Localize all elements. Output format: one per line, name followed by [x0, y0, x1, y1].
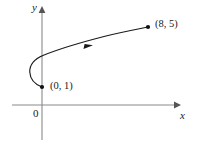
x-axis-arrowhead-icon	[174, 102, 181, 109]
start-point-label: (0, 1)	[50, 81, 73, 92]
y-axis-arrowhead-icon	[39, 6, 46, 13]
end-point-label: (8, 5)	[155, 19, 178, 30]
start-point-marker	[40, 85, 44, 89]
parametric-curve-figure: y x 0 (0, 1) (8, 5)	[0, 0, 199, 146]
origin-label: 0	[33, 108, 39, 119]
curve-direction-arrow-icon	[84, 44, 94, 49]
y-axis-label: y	[32, 2, 37, 13]
end-point-marker	[146, 25, 150, 29]
parametric-curve-path	[30, 27, 148, 87]
x-axis-label: x	[180, 110, 185, 121]
